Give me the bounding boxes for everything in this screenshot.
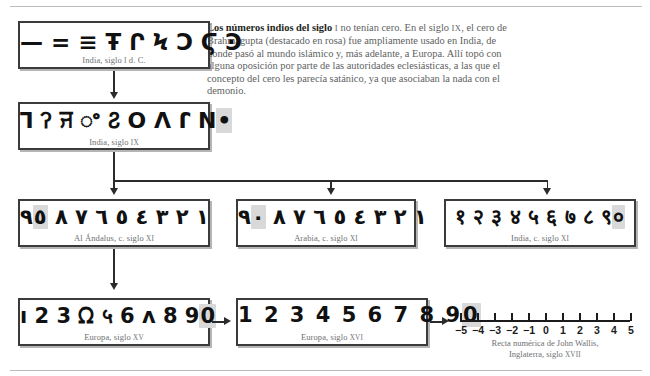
- glyph-sequence: ꓶ ꛫ ꠔ ꯦ ꛯ ꓳ ꓥ ꓩ ꓠ: [20, 108, 216, 133]
- number-line-label: 3: [594, 324, 600, 336]
- number-line-tick: [596, 313, 598, 321]
- caption-text: Arabia, c. siglo: [294, 233, 350, 243]
- number-line-tick: [613, 313, 615, 321]
- bottom-divider-rule: [10, 370, 642, 371]
- number-line-label: −2: [506, 324, 518, 336]
- arrow-right-europa-xvi-numberline: [442, 317, 449, 325]
- number-line-label: 0: [543, 324, 549, 336]
- number-line-label: −4: [472, 324, 484, 336]
- numeral-box-india-siglo-i: — = ≡ Ŧ Ր Ϟ Ͻ Ϛ Ͽ India, siglo I d. C.: [18, 21, 210, 69]
- number-line-tick: [494, 313, 496, 321]
- numberline-caption-line1: Recta numérica de John Wallis,: [491, 338, 598, 348]
- connector-line-box1-box2: [113, 71, 115, 94]
- caption-number-line: Recta numérica de John Wallis, Inglaterr…: [440, 338, 650, 360]
- numeral-box-al-andalus: ١ ٢ ٣ ٤ ٥ ٦ ٧ ٨ ٩٥ Al Ándalus, c. siglo …: [18, 199, 210, 247]
- glyph-sequence: ١ ٢ ٣ ٤ ٥ ٦ ٧ ٨ ٩: [238, 205, 427, 229]
- caption-roman: XV: [133, 334, 144, 342]
- connector-line-box2-down: [113, 152, 115, 181]
- caption-india-siglo-ix: India, siglo IX: [20, 137, 208, 147]
- zero-highlight-al-andalus: ٥: [33, 205, 48, 229]
- caption-roman: XVI: [350, 334, 363, 342]
- caption-roman: XI: [350, 235, 358, 243]
- zero-highlight-arabia: ٠: [251, 205, 266, 229]
- arrow-down-to-arabia: [327, 188, 335, 195]
- numeral-glyphs-al-andalus: ١ ٢ ٣ ٤ ٥ ٦ ٧ ٨ ٩٥: [20, 207, 208, 228]
- glyph-sequence: १ २ ३ ४ ५ ६ ७ ८ ९: [455, 205, 613, 229]
- caption-al-andalus: Al Ándalus, c. siglo XI: [20, 233, 208, 243]
- arrow-down-box1-box2: [110, 92, 118, 99]
- numeral-glyphs-india-siglo-xi: १ २ ३ ४ ५ ६ ७ ८ ९०: [446, 207, 634, 228]
- blurb-line1-rest: no tenían cero.: [338, 22, 402, 33]
- connector-line-al-andalus-europa-xv: [113, 249, 115, 285]
- glyph-sequence: ı 2 3 ᘯ ५ 6 ᴧ 8 9: [20, 304, 199, 328]
- numeral-glyphs-europa-siglo-xv: ı 2 3 ᘯ ५ 6 ᴧ 8 90: [20, 306, 208, 327]
- number-line-label: −1: [523, 324, 535, 336]
- number-line-tick: [545, 313, 547, 321]
- number-line-tick: [562, 313, 564, 321]
- arrow-down-to-al-andalus: [110, 188, 118, 195]
- numeral-box-europa-siglo-xv: ı 2 3 ᘯ ५ 6 ᴧ 8 90 Europa, siglo XV: [18, 298, 210, 346]
- number-line-tick: [630, 313, 632, 321]
- number-line-tick: [528, 313, 530, 321]
- caption-india-siglo-i: India, siglo I d. C.: [20, 55, 208, 65]
- number-line-tick: [477, 313, 479, 321]
- caption-europa-siglo-xvi: Europa, siglo XVI: [238, 332, 426, 342]
- number-line-label: 4: [611, 324, 617, 336]
- blurb-roman-ix: IX: [452, 23, 462, 33]
- caption-tail: d. C.: [127, 55, 146, 65]
- number-line-label: −5: [455, 324, 467, 336]
- explanatory-paragraph: Los números indios del siglo I no tenían…: [207, 22, 513, 98]
- number-line-label: 2: [577, 324, 583, 336]
- glyph-sequence: ١ ٢ ٣ ٤ ٥ ٦ ٧ ٨ ٩: [20, 205, 209, 229]
- infographic-canvas: Los números indios del siglo I no tenían…: [0, 0, 650, 376]
- caption-text: Europa, siglo: [84, 332, 133, 342]
- arrow-down-al-andalus-europa-xv: [110, 283, 118, 290]
- glyph-sequence: 1 2 3 4 5 6 7 8 9: [238, 303, 462, 327]
- blurb-body-b: , el cero de Brahmagupta (destacado en r…: [207, 22, 507, 96]
- caption-india-siglo-xi: India, c. siglo XI: [446, 233, 634, 243]
- number-line-label: 1: [560, 324, 566, 336]
- numberline-caption-roman: XVII: [565, 351, 581, 359]
- numeral-glyphs-india-siglo-i: — = ≡ Ŧ Ր Ϟ Ͻ Ϛ Ͽ: [20, 31, 208, 54]
- number-line-tick: [511, 313, 513, 321]
- caption-arabia: Arabia, c. siglo XI: [238, 233, 414, 243]
- numeral-glyphs-arabia: ١ ٢ ٣ ٤ ٥ ٦ ٧ ٨ ٩٠: [238, 207, 414, 228]
- arrow-down-to-india-xi: [543, 188, 551, 195]
- number-line-label: 5: [628, 324, 634, 336]
- caption-text: Al Ándalus, c. siglo: [74, 233, 146, 243]
- caption-text: India, c. siglo: [511, 233, 561, 243]
- numeral-box-arabia: ١ ٢ ٣ ٤ ٥ ٦ ٧ ٨ ٩٠ Arabia, c. siglo XI: [236, 199, 416, 247]
- caption-text: India, siglo: [89, 137, 131, 147]
- caption-europa-siglo-xv: Europa, siglo XV: [20, 332, 208, 342]
- caption-roman: IX: [131, 139, 139, 147]
- blurb-body-a: En el siglo: [405, 22, 452, 33]
- numeral-box-india-siglo-xi: १ २ ३ ४ ५ ६ ७ ८ ९० India, c. siglo XI: [444, 199, 636, 247]
- caption-roman: XI: [561, 235, 569, 243]
- numeral-glyphs-india-siglo-ix: ꓶ ꛫ ꠔ ꯦ ꛯ ꓳ ꓥ ꓩ ꓠ•: [20, 110, 208, 132]
- caption-roman: XI: [146, 235, 154, 243]
- zero-highlight-india-siglo-xi: ०: [612, 205, 625, 229]
- numeral-glyphs-europa-siglo-xvi: 1 2 3 4 5 6 7 8 90: [238, 305, 426, 326]
- number-line-tick: [460, 313, 462, 321]
- caption-text: Europa, siglo: [301, 332, 350, 342]
- top-divider-rule: [10, 6, 642, 7]
- numeral-box-india-siglo-ix: ꓶ ꛫ ꠔ ꯦ ꛯ ꓳ ꓥ ꓩ ꓠ• India, siglo IX: [18, 102, 210, 150]
- zero-highlight-europa-siglo-xv: 0: [199, 304, 216, 328]
- caption-text: India, siglo: [82, 55, 124, 65]
- zero-highlight-india-siglo-ix: •: [216, 108, 232, 133]
- arrow-right-europa-xv-xvi: [224, 317, 231, 325]
- number-line-tick: [579, 313, 581, 321]
- number-line-label: −3: [489, 324, 501, 336]
- numeral-box-europa-siglo-xvi: 1 2 3 4 5 6 7 8 90 Europa, siglo XVI: [236, 298, 428, 346]
- numberline-caption-line2: Inglaterra, siglo: [509, 349, 565, 359]
